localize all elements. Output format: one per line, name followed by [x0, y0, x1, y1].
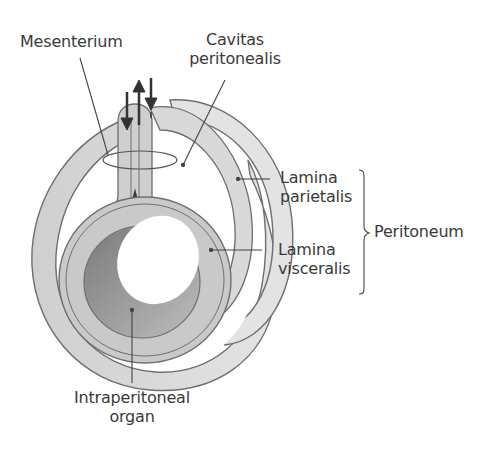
label-cavitas-peritonealis: Cavitas peritonealis [180, 30, 290, 68]
label-intraperitoneal-organ: Intraperitoneal organ [62, 388, 202, 426]
label-peritoneum: Peritoneum [374, 222, 464, 241]
label-organ-line1: Intraperitoneal [62, 388, 202, 407]
intraperitoneal-organ-shape [59, 197, 231, 363]
label-lamina-visceralis: Lamina visceralis [278, 240, 351, 278]
label-organ-line2: organ [62, 407, 202, 426]
label-visceralis-line2: visceralis [278, 259, 351, 278]
label-visceralis-line1: Lamina [278, 240, 351, 259]
label-cavitas-line2: peritonealis [180, 49, 290, 68]
label-cavitas-line1: Cavitas [180, 30, 290, 49]
label-parietalis-line1: Lamina [280, 168, 352, 187]
label-mesenterium: Mesenterium [20, 32, 123, 51]
label-parietalis-line2: parietalis [280, 187, 352, 206]
label-lamina-parietalis: Lamina parietalis [280, 168, 352, 206]
